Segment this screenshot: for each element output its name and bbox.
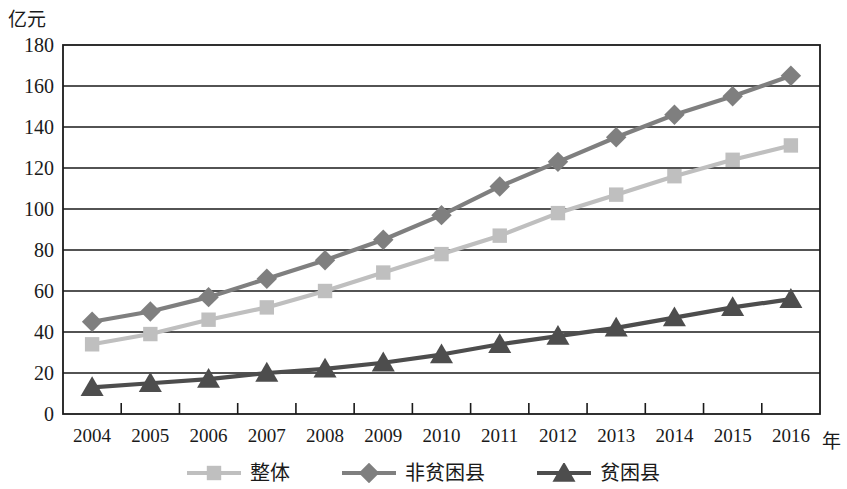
line-chart: 亿元 年 020406080100120140160180 2004200520… [0, 0, 847, 489]
legend-item[interactable]: 整体 [187, 463, 290, 483]
diamond-marker [490, 176, 510, 196]
square-marker [201, 313, 215, 327]
square-marker [376, 265, 390, 279]
square-marker [207, 466, 221, 480]
legend-item[interactable]: 非贫困县 [342, 463, 485, 483]
diamond-marker [373, 230, 393, 250]
diamond-marker [257, 268, 277, 288]
square-marker [85, 337, 99, 351]
legend-triangle-icon [537, 463, 591, 483]
square-marker [143, 327, 157, 341]
series-diamond [82, 66, 801, 332]
legend-square-icon [187, 463, 241, 483]
legend-diamond-icon [342, 463, 396, 483]
series-line [92, 76, 791, 322]
series-triangle [81, 288, 803, 396]
square-marker [260, 300, 274, 314]
square-marker [551, 206, 565, 220]
square-marker [609, 187, 623, 201]
plot-area [0, 0, 847, 489]
gridlines [63, 86, 820, 373]
chart-legend: 整体非贫困县贫困县 [0, 458, 847, 488]
diamond-marker [606, 127, 626, 147]
legend-label: 非贫困县 [405, 463, 485, 483]
diamond-marker [140, 301, 160, 321]
diamond-marker [722, 86, 742, 106]
square-marker [667, 169, 681, 183]
series-square [85, 138, 798, 351]
legend-item[interactable]: 贫困县 [537, 463, 660, 483]
legend-label: 贫困县 [600, 463, 660, 483]
legend-label: 整体 [250, 463, 290, 483]
series-line [92, 299, 791, 387]
square-marker [434, 247, 448, 261]
x-axis-ticks [121, 403, 762, 414]
diamond-marker [664, 104, 684, 124]
diamond-marker [315, 250, 335, 270]
diamond-marker [548, 152, 568, 172]
diamond-marker [781, 66, 801, 86]
diamond-marker [82, 312, 102, 332]
square-marker [784, 138, 798, 152]
diamond-marker [359, 463, 379, 483]
diamond-marker [198, 287, 218, 307]
square-marker [493, 228, 507, 242]
square-marker [725, 153, 739, 167]
diamond-marker [431, 205, 451, 225]
data-series-layer [81, 66, 803, 397]
square-marker [318, 284, 332, 298]
